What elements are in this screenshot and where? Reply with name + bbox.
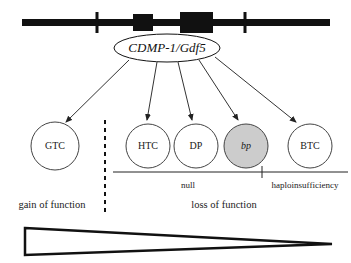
phenotype-node-gtc: GTC [31,122,79,170]
phenotype-label-htc: HTC [138,140,158,151]
phenotype-label-gtc: GTC [45,140,65,151]
gene-node-label: CDMP-1/Gdf5 [128,40,206,55]
arrow-to-gtc [66,60,129,122]
bracket-label-null: null [181,180,196,190]
gdf5-allelic-series-figure: CDMP-1/Gdf5 GTC HTC DP bp BTC [0,0,351,263]
arrow-to-bp [199,60,238,120]
severity-wedge [25,228,332,255]
phenotype-node-btc: BTC [288,124,332,168]
phenotype-label-btc: BTC [300,140,320,151]
exon-2-box [180,12,213,33]
gene-node: CDMP-1/Gdf5 [114,34,220,62]
bracket-label-haploinsufficiency: haploinsufficiency [272,180,339,190]
gene-structure-bar [22,12,330,33]
phenotype-label-dp: DP [190,140,203,151]
tick-right [244,12,247,33]
phenotype-node-bp: bp [224,124,268,168]
phenotype-node-dp: DP [174,124,218,168]
gain-of-function-label: gain of function [18,199,86,210]
exon-1-box [133,14,153,31]
derivation-arrows [66,57,296,122]
phenotype-node-htc: HTC [126,124,170,168]
arrow-to-btc [215,57,296,122]
severity-bracket: null haploinsufficiency [113,166,348,190]
arrow-to-htc [147,62,157,120]
phenotype-label-bp: bp [241,140,251,151]
gene-bar-line [22,19,330,26]
tick-left [96,12,99,33]
arrow-to-dp [178,62,192,120]
loss-of-function-label: loss of function [191,199,257,210]
